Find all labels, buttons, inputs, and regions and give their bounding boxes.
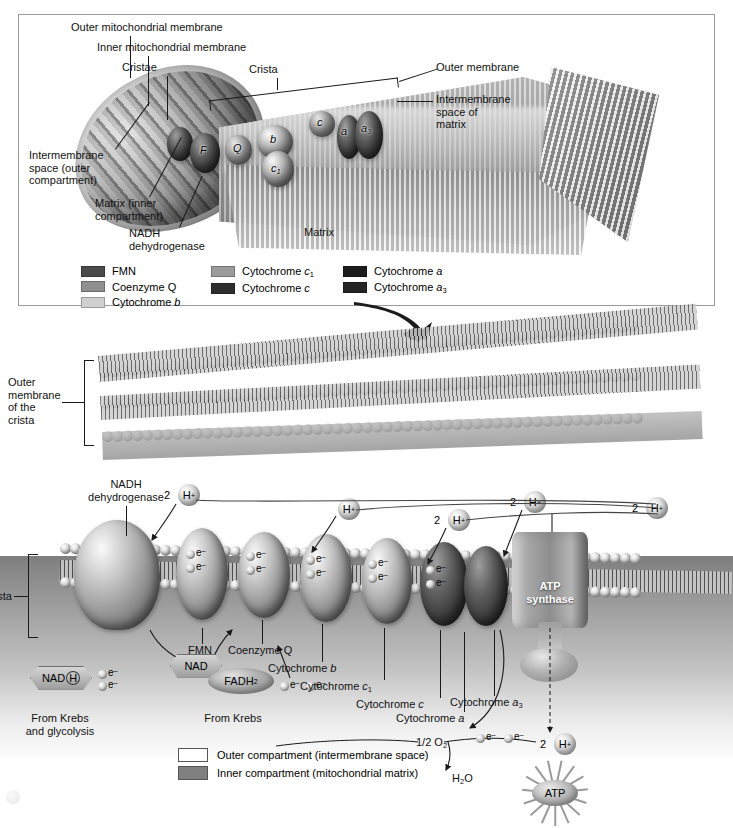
complex-label-b: b (270, 133, 276, 145)
outer-mitochondrial-membrane-label: Outer mitochondrial membrane (71, 21, 223, 34)
leader-cytochrome-c (440, 630, 441, 698)
legend-swatch-cytochrome-a3 (343, 282, 367, 293)
legend-label-cytochrome-a3: Cytochrome a3 (374, 281, 447, 295)
intermembrane-space-outer-label: Intermembrane space (outer compartment) (29, 149, 104, 187)
complex-label-c1: c1 (271, 162, 281, 176)
atp-starburst: ATP (520, 758, 590, 828)
inner-mitochondrial-membrane-label: Inner mitochondrial membrane (97, 41, 246, 54)
legend-column-1: FMN Coenzyme Q Cytochrome b (81, 265, 180, 312)
electron-dot-o2-2 (504, 734, 513, 743)
legend-swatch-coenzyme-q (81, 281, 105, 292)
electron-dot-nadh-2 (98, 682, 107, 691)
leader-line-outer-membrane-crista (62, 402, 84, 403)
legend-item-coenzyme-q: Coenzyme Q (81, 281, 180, 293)
cytochrome-a-label: Cytochrome a (396, 712, 464, 725)
leader-line-cristae (167, 76, 168, 120)
complex-label-q: Q (233, 142, 242, 154)
legend-compartments: Outer compartment (intermembrane space) … (178, 748, 429, 783)
legend-column-3: Cytochrome a Cytochrome a3 (343, 265, 447, 298)
legend-swatch-cytochrome-c (211, 283, 235, 294)
legend-item-outer-compartment: Outer compartment (intermembrane space) (178, 748, 429, 762)
outer-membrane-label: Outer membrane (436, 61, 519, 74)
electron-label-fadh-1: e– (290, 678, 300, 690)
bottom-panel-etc-detail: ATP synthase Crista NADH dehydrogenase 2… (0, 470, 733, 808)
electron-dot-fadh-1 (280, 682, 289, 691)
leader-cytochrome-b (322, 624, 323, 662)
legend-swatch-cytochrome-a (343, 266, 367, 277)
legend-label-inner-compartment: Inner compartment (mitochondrial matrix) (217, 767, 418, 779)
coenzyme-q-label: Coenzyme Q (228, 644, 292, 657)
legend-item-cytochrome-a: Cytochrome a (343, 265, 447, 277)
electron-label-nadh-2: e– (108, 678, 118, 690)
nadh-molecule: NADH (30, 666, 92, 690)
complex-label-a: a (341, 125, 347, 137)
electron-dot-o2-1 (476, 734, 485, 743)
leader-line-intermembrane-matrix (397, 101, 433, 102)
electron-label-o2-2: e– (514, 730, 524, 742)
legend-label-coenzyme-q: Coenzyme Q (112, 281, 176, 293)
leader-cytochrome-a3 (494, 630, 495, 696)
corner-mark (6, 790, 20, 804)
legend-item-inner-compartment: Inner compartment (mitochondrial matrix) (178, 766, 429, 780)
crista-label-top: Crista (249, 63, 278, 76)
leader-cytochrome-c1 (384, 628, 385, 680)
nadh-dehydrogenase-label-top: NADH dehydrogenase (129, 227, 205, 252)
complex-label-c: c (317, 116, 323, 128)
legend-swatch-outer-compartment (178, 748, 208, 762)
cytochrome-c1-label: Cytochrome c1 (300, 680, 372, 696)
atp-label: ATP (532, 780, 578, 806)
electron-label-o2-1: e– (486, 730, 496, 742)
matrix-inner-label: Matrix (inner compartment) (95, 197, 163, 222)
from-krebs-and-glycolysis-label: From Krebs and glycolysis (6, 712, 114, 737)
legend-item-cytochrome-b: Cytochrome b (81, 296, 180, 308)
legend-swatch-inner-compartment (178, 766, 208, 780)
legend-swatch-fmn (81, 266, 105, 277)
electron-label-nadh-1: e– (108, 666, 118, 678)
legend-item-cytochrome-c: Cytochrome c (211, 282, 314, 294)
cristae-label: Cristae (122, 61, 157, 74)
leader-fmn (202, 628, 203, 644)
water-label: H2O (452, 772, 473, 788)
legend-label-cytochrome-c1: Cytochrome c1 (242, 265, 314, 279)
matrix-label: Matrix (304, 226, 334, 239)
legend-swatch-cytochrome-b (81, 297, 105, 308)
complex-label-a3: a3 (361, 122, 371, 136)
from-krebs-label: From Krebs (192, 712, 274, 725)
legend-label-cytochrome-c: Cytochrome c (242, 282, 310, 294)
membrane-lower-body (102, 411, 703, 460)
legend-label-outer-compartment: Outer compartment (intermembrane space) (217, 749, 429, 761)
intermembrane-space-of-matrix-label: Intermembrane space of matrix (436, 93, 511, 131)
complex-label-f: F (200, 144, 207, 156)
mid-panel-membrane-detail: Outer membrane of the crista (0, 330, 733, 470)
legend-swatch-cytochrome-c1 (211, 266, 235, 277)
legend-item-fmn: FMN (81, 265, 180, 277)
legend-column-2: Cytochrome c1 Cytochrome c (211, 265, 314, 298)
leader-line-crista (277, 78, 278, 90)
leader-cytochrome-a (464, 632, 465, 712)
legend-item-cytochrome-a3: Cytochrome a3 (343, 281, 447, 295)
leader-line-outer-membrane-right (399, 69, 437, 82)
fmn-label: FMN (188, 644, 212, 657)
cytochrome-c-label: Cytochrome c (356, 698, 424, 711)
legend-item-cytochrome-c1: Cytochrome c1 (211, 265, 314, 279)
top-panel-mitochondrion: F Q b c1 c a a3 Matrix Outer mitochondri… (18, 14, 715, 306)
legend-label-fmn: FMN (112, 265, 136, 277)
legend-label-cytochrome-b: Cytochrome b (112, 296, 180, 308)
fadh2-molecule: FADH2 (208, 668, 274, 694)
legend-label-cytochrome-a: Cytochrome a (374, 265, 442, 277)
cytochrome-b-label: Cytochrome b (268, 662, 336, 675)
cytochrome-a3-label: Cytochrome a3 (450, 696, 523, 712)
electron-dot-nadh-1 (98, 670, 107, 679)
outer-membrane-crista-bracket (84, 360, 94, 446)
outer-membrane-of-crista-label: Outer membrane of the crista (8, 376, 61, 426)
leader-coenzyme-q (262, 620, 263, 644)
